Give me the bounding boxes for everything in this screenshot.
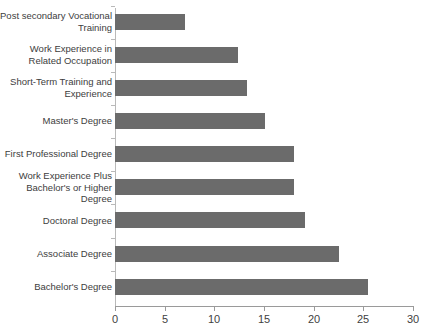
category-label-text: Post secondary Vocational Training (0, 10, 112, 33)
x-axis-tick-label: 10 (194, 313, 234, 326)
category-label-text: Short-Term Training and Experience (10, 76, 112, 99)
x-axis-tick (214, 306, 215, 311)
x-axis-tick-label: 0 (95, 313, 135, 326)
bar (115, 279, 368, 295)
x-axis-tick (314, 306, 315, 311)
x-axis-tick-label: 30 (393, 313, 431, 326)
x-axis-tick-label: 15 (244, 313, 284, 326)
y-axis-tick (111, 138, 115, 139)
category-label: Work Experience Plus Bachelor's or Highe… (0, 174, 112, 200)
category-label-text: Work Experience Plus Bachelor's or Highe… (0, 170, 112, 205)
bar (115, 146, 294, 162)
category-label: Master's Degree (0, 108, 112, 134)
category-label-text: First Professional Degree (5, 148, 112, 160)
x-axis-tick (413, 306, 414, 311)
category-label: Doctoral Degree (0, 207, 112, 233)
category-label: Post secondary Vocational Training (0, 9, 112, 35)
y-axis-tick (111, 6, 115, 7)
bar (115, 113, 265, 129)
y-axis-tick (111, 238, 115, 239)
category-label: Associate Degree (0, 241, 112, 267)
x-axis-tick (363, 306, 364, 311)
category-label-text: Master's Degree (43, 115, 112, 127)
category-label-text: Bachelor's Degree (34, 281, 112, 293)
bar (115, 14, 185, 30)
y-axis-tick (111, 105, 115, 106)
bar-chart: Post secondary Vocational TrainingWork E… (0, 0, 431, 335)
bar (115, 179, 294, 195)
bar (115, 80, 247, 96)
x-axis-tick (165, 306, 166, 311)
category-label: Work Experience in Related Occupation (0, 42, 112, 68)
x-axis-tick (264, 306, 265, 311)
bar (115, 212, 305, 228)
category-label-text: Doctoral Degree (43, 215, 112, 227)
category-label: First Professional Degree (0, 141, 112, 167)
x-axis-tick-label: 20 (294, 313, 334, 326)
category-label: Bachelor's Degree (0, 274, 112, 300)
bar (115, 47, 238, 63)
category-label-text: Work Experience in Related Occupation (29, 43, 112, 66)
y-axis-tick (111, 72, 115, 73)
bar (115, 246, 339, 262)
category-label: Short-Term Training and Experience (0, 75, 112, 101)
category-label-text: Associate Degree (37, 248, 112, 260)
y-axis-tick (111, 39, 115, 40)
x-axis-tick (115, 306, 116, 311)
plot-area: Post secondary Vocational TrainingWork E… (0, 0, 431, 335)
x-axis-tick-label: 5 (145, 313, 185, 326)
x-axis-tick-label: 25 (343, 313, 383, 326)
y-axis-tick (111, 271, 115, 272)
